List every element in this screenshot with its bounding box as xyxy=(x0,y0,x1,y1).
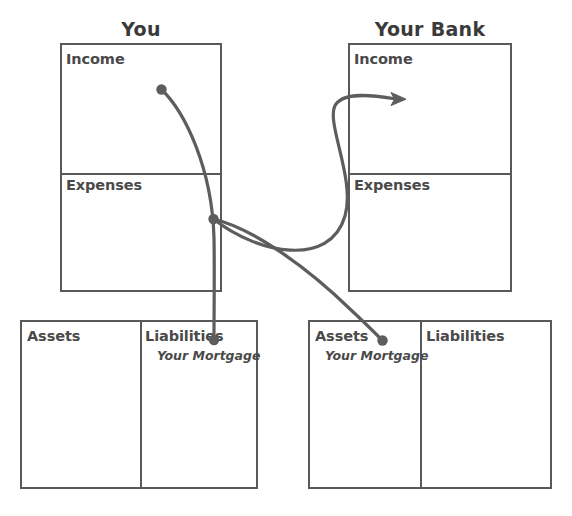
flow-dot-you-income xyxy=(156,84,166,94)
flow-expense-to-bank-asset xyxy=(214,219,382,339)
flow-dot-bank-assets-mortgage xyxy=(377,335,387,345)
flow-dot-you-expenses xyxy=(208,214,218,224)
flow-income-to-liability xyxy=(162,90,215,339)
flow-dot-you-liabilities-mortgage xyxy=(209,335,219,345)
diagram-canvas: You Your Bank Income Expenses Income Exp… xyxy=(0,0,572,516)
flow-arrows-layer xyxy=(0,0,572,516)
